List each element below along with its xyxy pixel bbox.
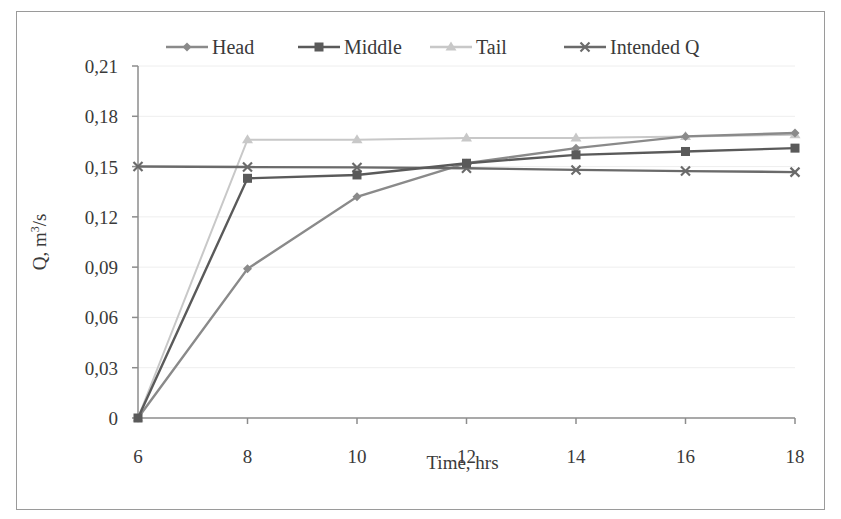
series-line: [138, 133, 795, 418]
legend-item-tail: Tail: [430, 36, 507, 58]
y-axis-title-base: Q, m: [29, 232, 50, 270]
x-tick-label: 18: [786, 446, 805, 467]
square-marker: [243, 174, 252, 183]
y-tick-label: 0,09: [85, 257, 118, 278]
series-line: [138, 135, 795, 418]
legend-item-intended-q: Intended Q: [564, 36, 700, 58]
y-axis-ticks: 00,030,060,090,120,150,180,21: [85, 56, 138, 429]
y-axis-title-tail: /s: [29, 214, 50, 227]
x-axis-title: Time, hrs: [426, 452, 498, 473]
square-marker: [462, 159, 471, 168]
y-tick-label: 0,12: [85, 207, 118, 228]
y-tick-label: 0,03: [85, 358, 118, 379]
axes: [138, 66, 795, 418]
x-tick-label: 8: [243, 446, 253, 467]
square-marker: [791, 144, 800, 153]
series-tail: [133, 129, 801, 421]
triangle-marker: [461, 133, 472, 142]
x-tick-label: 6: [133, 446, 143, 467]
x-tick-label: 14: [567, 446, 587, 467]
data-series: [133, 129, 801, 423]
y-tick-label: 0,21: [85, 56, 118, 77]
x-tick-label: 10: [348, 446, 367, 467]
legend-label: Intended Q: [610, 36, 700, 58]
y-axis-title: Q, m3/s: [28, 214, 50, 271]
y-tick-label: 0,06: [85, 307, 118, 328]
square-marker: [134, 414, 143, 423]
y-tick-label: 0,18: [85, 106, 118, 127]
line-chart: 00,030,060,090,120,150,180,21 6810121416…: [0, 0, 841, 519]
y-tick-label: 0: [109, 408, 119, 429]
square-marker: [572, 150, 581, 159]
legend-item-middle: Middle: [298, 36, 402, 58]
square-marker: [353, 170, 362, 179]
series-head: [134, 129, 800, 423]
series-middle: [134, 144, 800, 423]
square-marker: [681, 147, 690, 156]
x-tick-label: 16: [676, 446, 695, 467]
y-tick-label: 0,15: [85, 157, 118, 178]
legend-label: Head: [212, 36, 254, 58]
legend: HeadMiddleTailIntended Q: [166, 36, 700, 58]
diamond-marker: [183, 43, 192, 52]
legend-label: Tail: [476, 36, 507, 58]
legend-label: Middle: [344, 36, 402, 58]
legend-item-head: Head: [166, 36, 254, 58]
square-marker: [315, 43, 324, 52]
gridlines: [138, 66, 795, 368]
